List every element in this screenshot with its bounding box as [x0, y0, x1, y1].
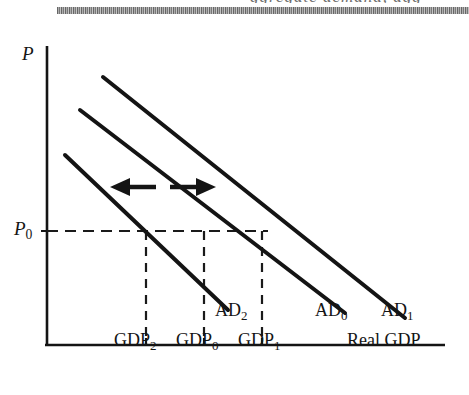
curve-ad1 — [103, 77, 405, 318]
x-tick-label-gdp1-base: GDP — [238, 330, 274, 350]
y-axis-label: P — [22, 43, 34, 65]
curve-label-ad0: AD0 — [315, 300, 347, 324]
x-tick-label-gdp0-sub: 0 — [212, 338, 218, 353]
curve-label-ad0-sub: 0 — [341, 308, 347, 323]
x-tick-label-gdp2-base: GDP — [114, 330, 150, 350]
x-tick-label-gdp2-sub: 2 — [150, 338, 156, 353]
x-tick-label-gdp1: GDP1 — [238, 330, 281, 354]
ad-shift-figure: ggregate demand, aggregating — [0, 0, 469, 395]
curve-label-ad1-sub: 1 — [407, 308, 413, 323]
leftward-shift-arrow — [110, 178, 156, 196]
rightward-shift-arrow — [170, 178, 216, 196]
x-tick-label-gdp1-sub: 1 — [274, 338, 280, 353]
curve-label-ad1: AD1 — [381, 300, 413, 324]
y-tick-label-p0-sub: 0 — [26, 227, 33, 242]
curve-label-ad1-base: AD — [381, 300, 407, 320]
y-axis-label-text: P — [22, 43, 34, 64]
curve-ad0 — [80, 110, 345, 313]
curve-label-ad2-base: AD — [215, 300, 241, 320]
curve-label-ad0-base: AD — [315, 300, 341, 320]
y-tick-label-p0: P0 — [14, 218, 32, 243]
curve-label-ad2-sub: 2 — [241, 308, 247, 323]
y-tick-label-p0-base: P — [14, 218, 26, 239]
x-tick-label-gdp0-base: GDP — [176, 330, 212, 350]
curve-label-ad2: AD2 — [215, 300, 247, 324]
x-tick-label-gdp2: GDP2 — [114, 330, 157, 354]
x-axis-label: Real GDP — [347, 330, 421, 351]
x-tick-label-gdp0: GDP0 — [176, 330, 219, 354]
